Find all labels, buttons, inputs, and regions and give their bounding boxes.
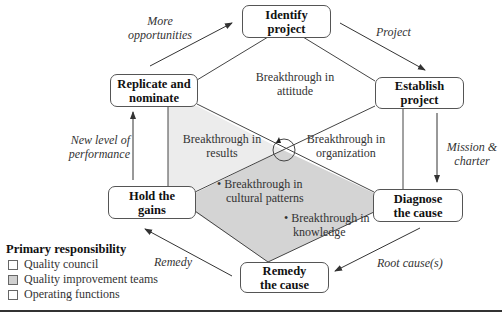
node-label: Diagnose [394,192,443,206]
legend: Primary responsibility Quality council Q… [6,242,158,302]
node-label: nominate [117,91,190,105]
node-label: Establish [395,79,444,93]
region-label-attitude: Breakthrough inattitude [245,70,345,98]
swatch-white-icon [8,260,18,270]
region-label-organization: Breakthrough inorganization [300,132,392,160]
node-label: project [395,93,444,107]
node-label: the cause [260,278,309,292]
edge-label-remedy: Remedy [154,255,192,269]
edge-label-new-level: New level ofperformance [54,133,130,161]
node-label: gains [129,203,175,217]
bottom-rule [0,310,502,312]
legend-item-quality-improvement-teams: Quality improvement teams [6,272,158,287]
edge-label-mission-charter: Mission &charter [443,140,501,168]
node-label: Replicate and [117,77,190,91]
edge-label-project: Project [376,25,411,39]
swatch-white-icon [8,290,18,300]
region-label-results: Breakthrough inresults [172,132,272,160]
node-label: Identify [265,8,307,22]
node-label: the cause [394,206,443,220]
node-label: Remedy [260,264,309,278]
node-label: project [265,22,307,36]
region-label-cultural-patterns: • Breakthrough incultural patterns [217,177,304,205]
legend-title: Primary responsibility [6,242,158,257]
node-establish-project[interactable]: Establishproject [375,77,464,109]
node-replicate-and-nominate[interactable]: Replicate andnominate [110,74,198,107]
swatch-gray-icon [8,275,18,285]
region-label-knowledge: • Breakthrough inknowledge [284,211,370,239]
node-identify-project[interactable]: Identifyproject [242,5,331,38]
legend-item-operating-functions: Operating functions [6,287,158,302]
edge-label-root-causes: Root cause(s) [377,256,443,270]
node-remedy-the-cause[interactable]: Remedythe cause [240,262,329,293]
node-hold-the-gains[interactable]: Hold thegains [108,186,196,219]
node-diagnose-the-cause[interactable]: Diagnosethe cause [373,189,463,222]
legend-item-quality-council: Quality council [6,257,158,272]
edge-label-more-opportunities: Moreopportunities [120,14,200,42]
node-label: Hold the [129,189,175,203]
